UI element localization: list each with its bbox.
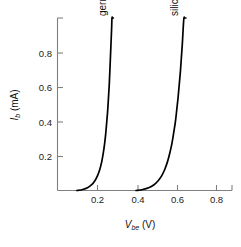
curve-silicon — [136, 17, 186, 190]
x-tick-label-2: 0.6 — [171, 194, 184, 205]
curve-germanium — [77, 17, 113, 190]
x-tick-label-1: 0.4 — [131, 194, 144, 205]
x-axis-title-unit: (V) — [142, 219, 155, 230]
x-axis-title-subscript: be — [131, 224, 139, 231]
y-axis-title: Ib (mA) — [9, 89, 21, 120]
curve-label-germanium: germanium — [97, 0, 108, 16]
svg-text:Ib (mA): Ib (mA) — [9, 89, 21, 120]
y-tick-label-0: 0.2 — [39, 151, 52, 162]
y-axis-ticks — [58, 53, 64, 157]
y-tick-label-3: 0.8 — [39, 48, 52, 59]
svg-text:Vbe (V): Vbe (V) — [125, 219, 156, 231]
y-tick-label-2: 0.6 — [39, 82, 52, 93]
data-curves — [77, 17, 186, 190]
y-tick-labels: 0.2 0.4 0.6 0.8 — [39, 48, 52, 163]
y-axis-title-unit: (mA) — [9, 89, 20, 111]
curve-label-silicon: silicon — [169, 0, 180, 16]
x-axis-title: Vbe (V) — [125, 219, 156, 231]
x-tick-labels: 0.2 0.4 0.6 0.8 — [91, 194, 223, 205]
y-tick-label-1: 0.4 — [39, 117, 52, 128]
x-tick-label-0: 0.2 — [91, 194, 104, 205]
chart-canvas: 0.2 0.4 0.6 0.8 0.2 0.4 0.6 0.8 Ib (mA) … — [0, 0, 241, 247]
x-axis-ticks — [98, 185, 217, 191]
diode-characteristic-figure: 0.2 0.4 0.6 0.8 0.2 0.4 0.6 0.8 Ib (mA) … — [0, 0, 241, 247]
x-tick-label-3: 0.8 — [210, 194, 223, 205]
curve-labels: germanium silicon — [97, 0, 180, 16]
axes-spines — [58, 18, 233, 191]
